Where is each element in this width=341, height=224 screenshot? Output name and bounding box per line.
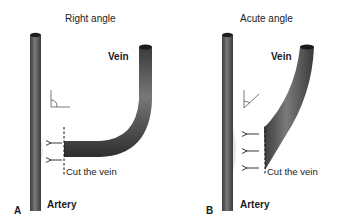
acute-angle-icon [244, 90, 259, 108]
vein-a-opening [139, 45, 152, 50]
artery-label-b: Artery [240, 200, 269, 210]
artery-label-a: Artery [47, 200, 76, 210]
cut-label-b: Cut the vein [267, 167, 318, 177]
panel-a-label: A [14, 206, 21, 216]
artery-a [30, 35, 41, 211]
panel-a-title: Right angle [65, 14, 116, 24]
arteriotomy-a [41, 140, 43, 162]
artery-b [222, 35, 233, 211]
panel-b-title: Acute angle [240, 14, 293, 24]
panel-b [222, 33, 314, 211]
vein-b [264, 47, 314, 170]
panel-a [30, 33, 152, 211]
right-angle-icon [51, 90, 70, 107]
vein-a [64, 47, 152, 157]
arteriotomy-b [233, 128, 236, 172]
panel-b-label: B [206, 206, 213, 216]
vein-label-a: Vein [108, 52, 129, 62]
diagram-canvas [0, 0, 341, 224]
artery-a-opening [30, 33, 41, 37]
artery-b-opening [222, 33, 233, 37]
vein-label-b: Vein [271, 52, 292, 62]
cut-label-a: Cut the vein [66, 167, 117, 177]
vein-b-opening [300, 45, 314, 50]
